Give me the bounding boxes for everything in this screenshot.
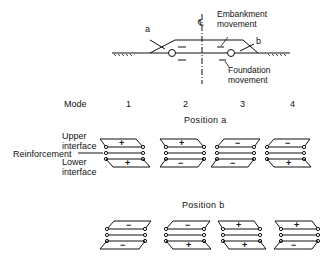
- position-b-marker: [228, 50, 235, 57]
- pos-b-mode-2-upper-sign: −: [185, 220, 190, 230]
- upper-interface-label-1: Upper: [62, 131, 87, 141]
- pos-b-mode-1-lower-sign: −: [120, 240, 125, 250]
- pos-b-mode-4-upper-sign: +: [294, 220, 299, 230]
- ground-hatch-left: [114, 54, 132, 56]
- foundation-movement-label-1: Foundation: [228, 65, 271, 75]
- lower-interface-label-2: interface: [62, 167, 97, 177]
- position-a-title: Position a: [184, 115, 227, 125]
- position-b-title: Position b: [182, 200, 225, 210]
- pos-b-mode-2-lower-sign: +: [186, 240, 191, 250]
- pos-a-mode-4-lower-sign: +: [286, 158, 291, 168]
- pos-a-mode-4-upper-sign: −: [285, 138, 290, 148]
- pos-a-mode-2-upper-sign: +: [179, 138, 184, 148]
- mode-number-3: 3: [240, 99, 245, 109]
- mode-number-4: 4: [290, 99, 295, 109]
- pos-a-mode-1-lower-sign: +: [125, 158, 130, 168]
- lower-interface-label-1: Lower: [62, 157, 87, 167]
- foundation-movement-label-2: movement: [228, 75, 268, 85]
- pos-b-mode-1-upper-sign: −: [126, 220, 131, 230]
- position-b-diagrams: [100, 221, 320, 249]
- mode-number-1: 1: [126, 99, 131, 109]
- pos-b-mode-3-lower-sign: +: [242, 240, 247, 250]
- centerline-symbol: ℄: [198, 18, 204, 28]
- mode-label: Mode: [64, 99, 87, 109]
- pos-a-mode-3-lower-sign: −: [230, 158, 235, 168]
- label-position-a: a: [145, 24, 150, 34]
- embankment-movement-label-1: Embankment: [217, 9, 267, 19]
- pos-b-mode-3-upper-sign: +: [236, 220, 241, 230]
- leader-a: [150, 40, 165, 49]
- position-a-diagrams: [78, 139, 311, 167]
- pos-a-mode-2-lower-sign: −: [178, 158, 183, 168]
- label-position-b: b: [256, 36, 261, 46]
- position-a-marker: [169, 50, 176, 57]
- pos-a-mode-1-upper-sign: +: [119, 138, 124, 148]
- embankment-movement-label-2: movement: [217, 19, 257, 29]
- diagram-canvas: [0, 0, 333, 262]
- ground-hatch-right: [268, 54, 286, 56]
- leader-embankment: [221, 37, 228, 46]
- mode-number-2: 2: [183, 99, 188, 109]
- embankment-outline: [150, 40, 258, 53]
- pos-b-mode-4-lower-sign: −: [291, 240, 296, 250]
- pos-a-mode-3-upper-sign: −: [235, 138, 240, 148]
